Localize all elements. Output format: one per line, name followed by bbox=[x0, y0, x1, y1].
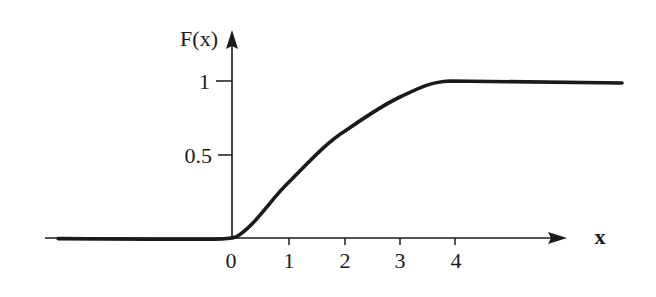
x-tick-label-4: 4 bbox=[451, 248, 462, 273]
x-tick-label-3: 3 bbox=[395, 248, 406, 273]
y-axis-label: F(x) bbox=[180, 26, 218, 51]
x-axis-label: x bbox=[595, 224, 606, 249]
cdf-curve bbox=[58, 81, 622, 239]
x-tick-label-2: 2 bbox=[340, 248, 351, 273]
y-tick-label-1: 1 bbox=[199, 69, 210, 94]
x-tick-label-0: 0 bbox=[226, 248, 237, 273]
x-ticks bbox=[289, 238, 455, 245]
cdf-chart: F(x) x 1 0.5 0 1 2 3 4 bbox=[0, 0, 656, 297]
y-ticks bbox=[216, 81, 232, 155]
x-tick-label-1: 1 bbox=[284, 248, 295, 273]
y-tick-label-0.5: 0.5 bbox=[185, 143, 213, 168]
